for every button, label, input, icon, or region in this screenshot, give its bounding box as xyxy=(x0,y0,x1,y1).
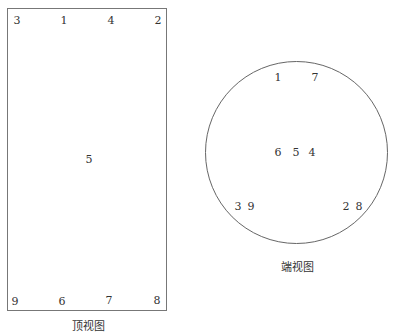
end-view-label-3: 3 xyxy=(235,201,242,213)
top-view-label-5: 5 xyxy=(86,154,93,166)
top-view-label-7: 7 xyxy=(106,295,113,307)
top-view-label-8: 8 xyxy=(154,295,161,307)
end-view-label-9: 9 xyxy=(248,201,255,213)
end-view-label-8: 8 xyxy=(356,201,363,213)
end-view-label-2: 2 xyxy=(343,201,350,213)
end-view-label-7: 7 xyxy=(312,72,319,84)
top-view-label-2: 2 xyxy=(155,15,162,27)
end-view-label-1: 1 xyxy=(275,72,282,84)
top-view-label-1: 1 xyxy=(61,15,68,27)
end-view-label-5: 5 xyxy=(293,147,300,159)
top-view-label-3: 3 xyxy=(14,15,21,27)
top-view-label-6: 6 xyxy=(59,296,66,308)
end-view-caption: 端视图 xyxy=(281,258,314,274)
top-view-label-9: 9 xyxy=(12,296,19,308)
top-view-caption: 顶视图 xyxy=(72,317,105,333)
end-view-label-6: 6 xyxy=(275,147,282,159)
end-view-label-4: 4 xyxy=(309,147,316,159)
top-view-label-4: 4 xyxy=(108,15,115,27)
